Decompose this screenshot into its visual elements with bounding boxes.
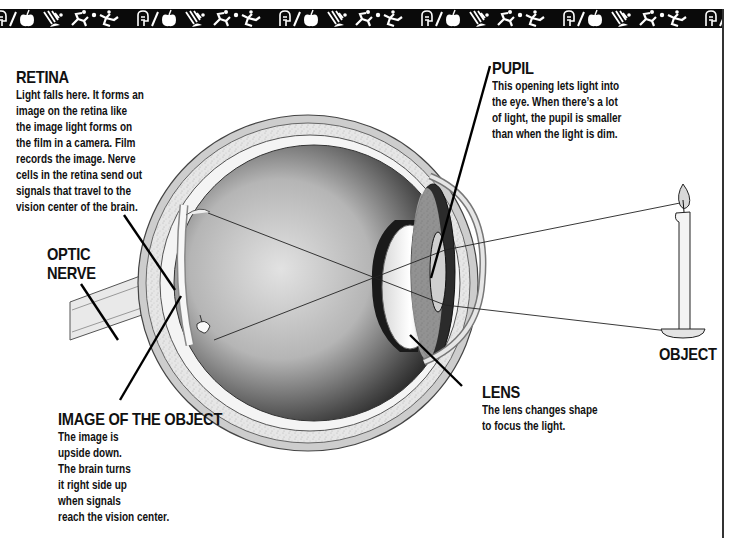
retina-line: Light falls here. It forms an <box>16 87 144 103</box>
lens-title: LENS <box>482 383 606 402</box>
lens-line: The lens changes shape <box>482 402 598 418</box>
image-of-object-line: when signals <box>58 493 211 509</box>
retina-line: the film in a camera. Film <box>16 135 144 151</box>
image-of-object-line: The image is <box>58 429 211 445</box>
optic-nerve-label-group: OPTIC NERVE <box>47 245 104 283</box>
object-title: OBJECT <box>659 345 717 364</box>
retina-line: the image light forms on <box>16 119 144 135</box>
retina-description: Light falls here. It forms an image on t… <box>16 87 144 215</box>
pupil-line: the eye. When there’s a lot <box>492 94 621 110</box>
retina-line: image on the retina like <box>16 103 144 119</box>
image-of-object-line: upside down. <box>58 445 211 461</box>
pupil-description: This opening lets light into the eye. Wh… <box>492 78 621 142</box>
object-label-group: OBJECT <box>659 345 726 364</box>
retina-line: cells in the retina send out <box>16 167 144 183</box>
image-of-object-line: reach the vision center. <box>58 509 211 525</box>
pupil-line: of light, the pupil is smaller <box>492 110 621 126</box>
retina-line: signals that travel to the <box>16 183 144 199</box>
pupil-line: than when the light is dim. <box>492 126 621 142</box>
candle-object-icon <box>661 184 705 338</box>
image-of-object-line: it right side up <box>58 477 211 493</box>
retina-line: vision center of the brain. <box>16 199 144 215</box>
image-of-object-title: IMAGE OF THE OBJECT <box>58 410 222 429</box>
retina-label-group: RETINA Light falls here. It forms an ima… <box>16 68 176 215</box>
pupil-label-group: PUPIL This opening lets light into the e… <box>492 59 654 142</box>
pupil-title: PUPIL <box>492 59 631 78</box>
optic-nerve-title-line-2: NERVE <box>47 264 96 283</box>
image-of-object-line: The brain turns <box>58 461 211 477</box>
retina-line: records the image. Nerve <box>16 151 144 167</box>
pupil-line: This opening lets light into <box>492 78 621 94</box>
image-of-object-description: The image is upside down. The brain turn… <box>58 429 211 525</box>
lens-description: The lens changes shape to focus the ligh… <box>482 402 598 434</box>
lens-line: to focus the light. <box>482 418 598 434</box>
optic-nerve-title-line-1: OPTIC <box>47 245 96 264</box>
lens-label-group: LENS The lens changes shape to focus the… <box>482 383 627 434</box>
image-of-object-label-group: IMAGE OF THE OBJECT The image is upside … <box>58 410 249 525</box>
retina-title: RETINA <box>16 68 153 87</box>
